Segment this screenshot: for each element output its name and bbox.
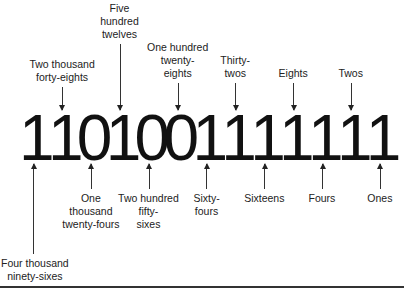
arrow-down-icon [235, 83, 236, 110]
binary-digit: 1 [221, 108, 249, 168]
arrow-up-icon [322, 164, 323, 189]
binary-digit: 0 [135, 108, 163, 168]
binary-digit: 1 [337, 108, 365, 168]
place-value-label: Twos [338, 67, 363, 80]
place-value-label: Fivehundredtwelves [100, 2, 139, 41]
binary-digit: 1 [192, 108, 220, 168]
arrow-down-icon [293, 83, 294, 110]
place-value-label: Fours [309, 192, 336, 205]
arrow-down-icon [178, 83, 179, 110]
binary-digit: 0 [164, 108, 192, 168]
place-value-label: Onethousandtwenty-fours [62, 192, 119, 231]
place-value-label: Sixteens [244, 192, 284, 205]
bottom-rule [0, 286, 404, 288]
binary-digit: 1 [308, 108, 336, 168]
arrow-down-icon [62, 87, 63, 110]
place-value-label: Sixty-fours [193, 192, 219, 218]
binary-digit: 1 [279, 108, 307, 168]
binary-digit: 0 [77, 108, 105, 168]
binary-digit: 1 [48, 108, 76, 168]
binary-digit: 1 [19, 108, 47, 168]
arrow-up-icon [33, 164, 34, 254]
place-value-label: Ones [367, 192, 392, 205]
place-value-label: Eights [279, 67, 308, 80]
arrow-down-icon [120, 44, 121, 110]
place-value-label: Thirty-twos [220, 54, 250, 80]
arrow-up-icon [206, 164, 207, 189]
arrow-up-icon [380, 164, 381, 189]
binary-digit: 1 [106, 108, 134, 168]
place-value-label: Two thousandforty-eights [29, 58, 94, 84]
place-value-label: Two hundredfifty-sixes [118, 192, 179, 231]
binary-digit: 1 [250, 108, 278, 168]
place-value-label: One hundredtwenty-eights [147, 41, 208, 80]
arrow-up-icon [149, 164, 150, 189]
arrow-up-icon [91, 164, 92, 189]
arrow-down-icon [351, 83, 352, 110]
place-value-label: Four thousandninety-sixes [1, 257, 69, 283]
arrow-up-icon [264, 164, 265, 189]
binary-digit: 1 [366, 108, 394, 168]
